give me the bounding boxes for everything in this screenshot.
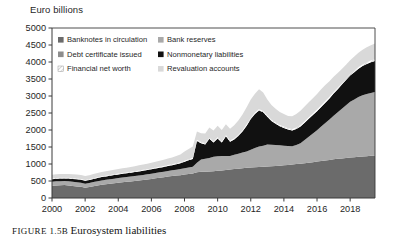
legend-label: Banknotes in circulation <box>67 35 147 44</box>
caption-title: Eurosystem liabilities <box>71 224 167 236</box>
x-tick-label: 2004 <box>108 204 128 214</box>
y-tick-label: 3500 <box>26 74 46 84</box>
y-tick-label: 0 <box>41 193 46 203</box>
legend-label: Financial net worth <box>67 64 131 73</box>
x-tick-label: 2018 <box>340 204 360 214</box>
figure-caption: FIGURE 1.5B Eurosystem liabilities <box>12 224 166 236</box>
caption-number: 1.5B <box>50 226 68 236</box>
y-tick-group: 0500100015002000250030003500400045005000 <box>26 23 52 203</box>
legend-swatch <box>58 37 64 43</box>
x-tick-label: 2014 <box>274 204 294 214</box>
x-tick-label: 2010 <box>207 204 227 214</box>
y-tick-label: 3000 <box>26 91 46 101</box>
y-tick-label: 1000 <box>26 159 46 169</box>
figure-container: Euro billions 0500100015002000250 <box>0 0 393 245</box>
legend-swatch <box>58 52 64 58</box>
x-tick-label: 2002 <box>75 204 95 214</box>
y-tick-label: 1500 <box>26 142 46 152</box>
legend-swatch <box>158 66 164 72</box>
legend-label: Revaluation accounts <box>167 64 240 73</box>
legend-swatch <box>58 66 64 72</box>
y-tick-label: 2000 <box>26 125 46 135</box>
stacked-area-chart: 0500100015002000250030003500400045005000… <box>0 0 393 220</box>
x-tick-group: 2000200220042006200820102012201420162018 <box>42 198 361 214</box>
legend-label: Debt certificate issued <box>67 50 142 59</box>
x-tick-label: 2008 <box>174 204 194 214</box>
legend-swatch <box>158 37 164 43</box>
x-tick-label: 2000 <box>42 204 62 214</box>
legend-label: Nonmonetary liabilities <box>167 50 244 59</box>
y-tick-label: 5000 <box>26 23 46 33</box>
y-tick-label: 4500 <box>26 40 46 50</box>
y-tick-label: 4000 <box>26 57 46 67</box>
legend-label: Bank reserves <box>167 35 216 44</box>
y-tick-label: 500 <box>31 176 46 186</box>
x-tick-label: 2012 <box>241 204 261 214</box>
x-tick-label: 2006 <box>141 204 161 214</box>
caption-prefix: FIGURE <box>12 226 47 236</box>
legend-swatch <box>158 52 164 58</box>
x-tick-label: 2016 <box>307 204 327 214</box>
y-tick-label: 2500 <box>26 108 46 118</box>
